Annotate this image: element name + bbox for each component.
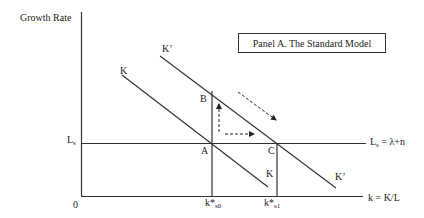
k-prime-curve	[160, 56, 336, 188]
k-s0-tick-label: k*s0	[205, 198, 221, 210]
panel-title: Panel A. The Standard Model	[253, 38, 371, 49]
x-axis-label: k = K/L	[368, 193, 400, 203]
k-prime-top-label: K’	[162, 44, 173, 54]
origin-label: 0	[73, 200, 78, 210]
point-b-label: B	[200, 94, 207, 104]
ls-right-label: Ls = λ+n	[370, 137, 405, 149]
panel-title-box: Panel A. The Standard Model	[238, 33, 386, 53]
k-curve	[122, 75, 268, 187]
ls-left-sub: s	[73, 139, 76, 147]
k-s1-sub: s1	[274, 202, 280, 210]
k-curve-top-label: K	[120, 66, 127, 76]
ls-right-eq: = λ+n	[379, 136, 405, 147]
k-curve-bottom-label: K	[266, 169, 273, 179]
point-a-label: A	[201, 146, 208, 156]
ls-left-label: Ls	[67, 135, 76, 147]
k-s0-sub: s0	[215, 202, 221, 210]
k-s0-main: k*	[205, 197, 215, 208]
y-axis-label: Growth Rate	[20, 13, 71, 23]
k-s1-tick-label: k*s1	[264, 198, 280, 210]
k-prime-bottom-label: K’	[335, 172, 346, 182]
point-c-label: C	[268, 146, 275, 156]
diagonal-arrow	[238, 92, 276, 120]
k-s1-main: k*	[264, 197, 274, 208]
